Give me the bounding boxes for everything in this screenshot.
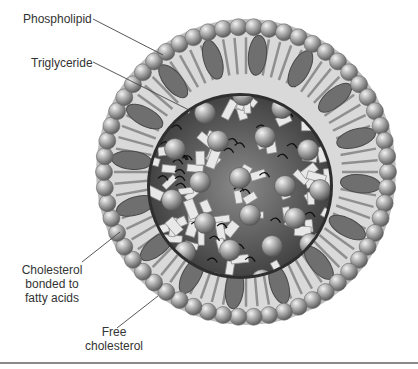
divider-rule bbox=[0, 362, 418, 364]
label-triglyceride: Triglyceride bbox=[31, 56, 93, 70]
label-phospholipid: Phospholipid bbox=[23, 12, 92, 26]
label-line: fatty acids bbox=[14, 291, 90, 305]
label-line: bonded to bbox=[14, 277, 90, 291]
label-line: cholesterol bbox=[74, 339, 154, 353]
label-free-cholesterol: Free cholesterol bbox=[74, 325, 154, 353]
lipoprotein-diagram: Phospholipid Triglyceride Cholesterol bo… bbox=[0, 0, 418, 369]
label-cholesterol-ester: Cholesterol bonded to fatty acids bbox=[14, 263, 90, 305]
label-line: Free bbox=[74, 325, 154, 339]
label-line: Cholesterol bbox=[14, 263, 90, 277]
